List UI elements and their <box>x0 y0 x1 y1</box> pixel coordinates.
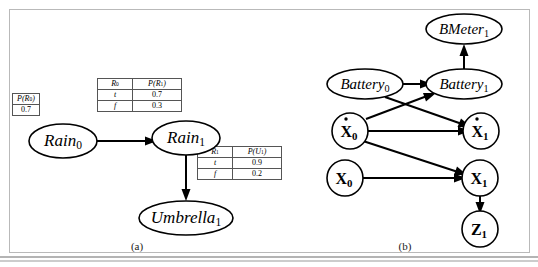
node-xdot1[interactable]: X1 <box>463 113 499 149</box>
panel-caption-a: (a) <box>122 240 152 252</box>
arrowhead-xdot0-to-battery1 <box>423 93 436 102</box>
edge-battery0-to-xdot1 <box>385 97 462 124</box>
node-z1[interactable]: Z1 <box>462 211 498 247</box>
node-xdot0[interactable]: X0 <box>332 113 368 149</box>
xdot1-dot-accent <box>475 117 478 120</box>
node-battery1-label: Battery1 <box>439 76 488 94</box>
bottom-rule-upper <box>0 256 538 258</box>
figure-root: P(R0) 0.7 R0 P(R1) t 0.7 f 0.3 R1 P(U1) … <box>0 0 538 267</box>
xdot0-dot-accent <box>344 117 347 120</box>
node-rain1[interactable]: Rain1 <box>152 121 220 155</box>
panel-caption-b: (b) <box>390 240 420 252</box>
arrowhead-rain1-to-umbrella1 <box>182 189 191 201</box>
node-umbrella1-label: Umbrella1 <box>151 208 222 229</box>
bottom-rule-lower <box>0 260 538 262</box>
node-battery0-label: Battery0 <box>340 76 389 94</box>
node-bmeter1[interactable]: BMeter1 <box>426 14 502 44</box>
node-x0[interactable]: X0 <box>327 160 363 196</box>
node-x1[interactable]: X1 <box>462 160 498 196</box>
node-rain0[interactable]: Rain0 <box>29 124 97 158</box>
diagram-canvas: Rain0 Rain1 Umbrella1 <box>0 0 538 267</box>
arrowhead-battery1-to-bmeter1 <box>460 44 469 56</box>
edge-xdot0-to-x1 <box>363 141 458 172</box>
node-bmeter1-label: BMeter1 <box>439 21 489 39</box>
node-battery1[interactable]: Battery1 <box>426 69 502 99</box>
node-umbrella1[interactable]: Umbrella1 <box>139 201 233 235</box>
node-battery0[interactable]: Battery0 <box>327 69 403 99</box>
